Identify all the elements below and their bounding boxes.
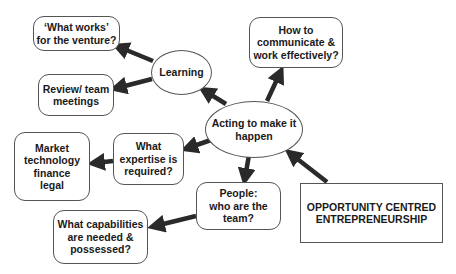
node-line: for the venture? xyxy=(37,34,117,47)
node-learning: Learning xyxy=(151,50,212,95)
arrow-acting-to-people xyxy=(245,155,249,178)
node-line: legal xyxy=(24,179,80,192)
node-line: team? xyxy=(209,212,267,225)
node-line: finance xyxy=(24,167,80,180)
node-opportunity-centred-entrepreneurship: OPPORTUNITY CENTREDENTREPRENEURSHIP xyxy=(300,183,443,243)
node-market-technology: Markettechnologyfinancelegal xyxy=(14,132,90,201)
arrow-acting-to-communicate xyxy=(267,73,280,101)
node-capabilities: What capabilitiesare needed &possessed? xyxy=(53,210,148,264)
node-line: ENTREPRENEURSHIP xyxy=(307,213,436,226)
node-line: expertise is xyxy=(120,153,178,166)
node-line: Acting to make it xyxy=(212,117,297,130)
node-acting: Acting to make ithappen xyxy=(205,101,303,158)
node-line: People: xyxy=(209,187,267,200)
node-line: What xyxy=(120,140,178,153)
arrow-learning-to-review xyxy=(117,79,152,88)
arrow-learning-to-what-works xyxy=(119,47,153,61)
node-line: How to xyxy=(253,24,338,37)
arrow-acting-to-expertise xyxy=(188,140,211,148)
node-line: What capabilities xyxy=(58,218,144,231)
node-line: happen xyxy=(212,130,297,143)
node-line: are needed & xyxy=(58,231,144,244)
node-line: Market xyxy=(24,142,80,155)
node-line: required? xyxy=(120,165,178,178)
arrow-oce-to-acting xyxy=(291,154,327,182)
node-review-meetings: Review/ teammeetings xyxy=(38,74,114,116)
node-communicate: How tocommunicate &work effectively? xyxy=(249,17,343,68)
node-line: communicate & xyxy=(253,36,338,49)
node-line: who are the xyxy=(209,200,267,213)
arrow-expertise-to-market xyxy=(95,161,113,163)
node-expertise: Whatexpertise isrequired? xyxy=(113,133,184,185)
node-line: work effectively? xyxy=(253,49,338,62)
node-line: possessed? xyxy=(58,243,144,256)
node-line: meetings xyxy=(43,95,110,108)
arrow-acting-to-learning xyxy=(205,91,226,104)
node-line: ‘What works’ xyxy=(37,21,117,34)
node-what-works: ‘What works’for the venture? xyxy=(33,16,120,51)
node-people: People:who are theteam? xyxy=(196,182,281,230)
node-line: Review/ team xyxy=(43,83,110,96)
node-line: technology xyxy=(24,154,80,167)
node-line: Learning xyxy=(159,66,203,79)
arrow-people-to-capabilities xyxy=(155,216,196,226)
node-line: OPPORTUNITY CENTRED xyxy=(307,201,436,214)
